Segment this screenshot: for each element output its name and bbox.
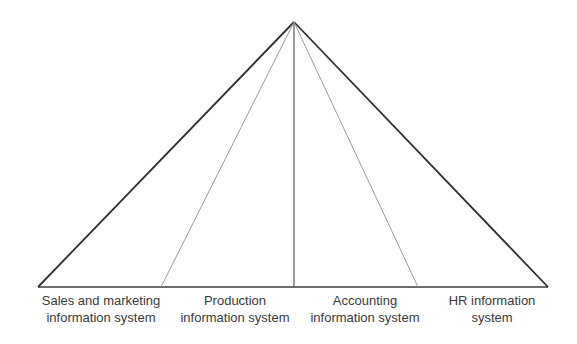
label-line-2: information system	[42, 309, 161, 326]
pyramid-left-edge	[38, 22, 294, 287]
label-production: Production information system	[180, 292, 289, 326]
label-line-1: Production	[180, 292, 289, 309]
label-sales-marketing: Sales and marketing information system	[42, 292, 161, 326]
pyramid-diagram: Sales and marketing information system P…	[0, 0, 577, 344]
label-line-2: information system	[180, 309, 289, 326]
label-hr: HR information system	[449, 292, 536, 326]
label-line-2: information system	[310, 309, 419, 326]
label-line-2: system	[449, 309, 536, 326]
label-line-1: HR information	[449, 292, 536, 309]
label-line-1: Sales and marketing	[42, 292, 161, 309]
pyramid-right-edge	[294, 22, 548, 287]
label-line-1: Accounting	[310, 292, 419, 309]
divider-sales-production	[161, 22, 294, 287]
label-accounting: Accounting information system	[310, 292, 419, 326]
divider-accounting-hr	[294, 22, 418, 287]
